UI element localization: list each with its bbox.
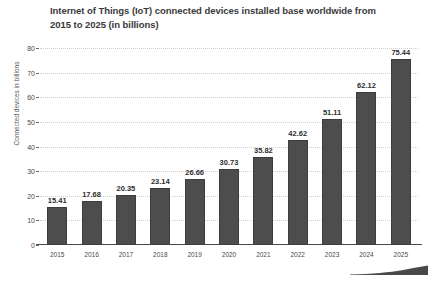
bar[interactable] [322, 119, 342, 245]
bar[interactable] [150, 188, 170, 245]
bar-value-label: 62.12 [357, 81, 376, 90]
y-axis-tick [36, 73, 39, 74]
y-axis-tick [36, 245, 39, 246]
y-axis-tick-label: 80 [27, 45, 35, 52]
x-axis-tick-label: 2020 [222, 251, 236, 258]
x-axis-tick-label: 2025 [394, 251, 408, 258]
bar-group: 75.442025 [391, 48, 411, 245]
y-axis-tick [36, 171, 39, 172]
page-title: Internet of Things (IoT) connected devic… [50, 4, 390, 31]
x-axis-tick-label: 2015 [50, 251, 64, 258]
y-axis-tick-label: 50 [27, 118, 35, 125]
bar-value-label: 17.68 [82, 190, 101, 199]
bar-value-label: 30.73 [220, 158, 239, 167]
bar-value-label: 23.14 [151, 177, 170, 186]
bar[interactable] [391, 59, 411, 245]
bar[interactable] [219, 169, 239, 245]
bar-value-label: 51.11 [323, 108, 341, 117]
y-axis-tick-label: 40 [27, 143, 35, 150]
bar[interactable] [82, 201, 102, 245]
bar-group: 35.822021 [253, 48, 273, 245]
bar-group: 20.352017 [116, 48, 136, 245]
bar-group: 51.112023 [322, 48, 342, 245]
x-axis-tick-label: 2018 [153, 251, 167, 258]
x-axis-tick-label: 2016 [84, 251, 98, 258]
y-axis-tick-label: 20 [27, 192, 35, 199]
y-axis-tick-label: 30 [27, 168, 35, 175]
bar[interactable] [47, 207, 67, 245]
y-axis-tick [36, 196, 39, 197]
bar-value-label: 42.62 [288, 129, 307, 138]
bar[interactable] [253, 157, 273, 245]
bar-group: 30.732020 [219, 48, 239, 245]
bar-value-label: 15.41 [48, 196, 67, 205]
bar[interactable] [288, 140, 308, 245]
bar-value-label: 20.35 [117, 184, 136, 193]
bar[interactable] [356, 92, 376, 245]
x-axis-tick-label: 2023 [325, 251, 339, 258]
bar-value-label: 26.66 [185, 168, 204, 177]
bar-value-label: 35.82 [254, 146, 273, 155]
bar-group: 62.122024 [356, 48, 376, 245]
y-axis-tick [36, 48, 39, 49]
bar-group: 23.142018 [150, 48, 170, 245]
bar[interactable] [116, 195, 136, 245]
x-axis-tick-label: 2024 [359, 251, 373, 258]
bar-group: 42.622022 [288, 48, 308, 245]
y-axis-tick-label: 70 [27, 69, 35, 76]
y-axis-tick [36, 220, 39, 221]
x-axis-tick-label: 2019 [187, 251, 201, 258]
bar-series: 15.41201517.68201620.35201723.14201826.6… [40, 48, 418, 245]
plot-area: 01020304050607080 15.41201517.68201620.3… [40, 48, 418, 245]
bar-group: 26.662019 [185, 48, 205, 245]
y-axis-tick [36, 147, 39, 148]
bar[interactable] [185, 179, 205, 245]
x-axis-tick-label: 2017 [119, 251, 133, 258]
y-axis-tick [36, 97, 39, 98]
y-axis-tick-label: 10 [27, 217, 35, 224]
bar-value-label: 75.44 [391, 48, 410, 57]
corner-sliver-decoration [350, 265, 428, 275]
y-axis-tick-label: 0 [31, 242, 35, 249]
y-axis-tick [36, 122, 39, 123]
x-axis-tick-label: 2021 [256, 251, 270, 258]
bar-group: 15.412015 [47, 48, 67, 245]
y-axis-title: Connected devices in billions [13, 34, 20, 174]
x-axis-tick-label: 2022 [290, 251, 304, 258]
y-axis-tick-label: 60 [27, 94, 35, 101]
bar-group: 17.682016 [82, 48, 102, 245]
